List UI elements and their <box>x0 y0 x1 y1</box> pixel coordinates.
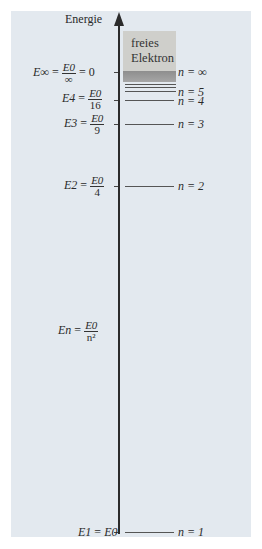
axis-label: Energie <box>65 12 102 27</box>
energy-label-1: E1 = E0 <box>78 525 117 540</box>
fraction-den: 4 <box>90 187 104 198</box>
formula-lhs: En <box>58 323 71 337</box>
energy-axis <box>118 20 120 534</box>
energy-level-line-4 <box>125 100 174 101</box>
fraction: E0∞ <box>62 62 76 85</box>
energy-level-line-2 <box>125 186 174 187</box>
energy-level-line-3 <box>125 124 174 125</box>
fraction-den: 9 <box>90 125 104 136</box>
n-label-2: n = 2 <box>178 179 204 194</box>
fraction: E09 <box>90 113 104 136</box>
tick-3 <box>114 124 118 125</box>
energy-level-line-6 <box>125 87 176 88</box>
n-label-3: n = 3 <box>178 117 204 132</box>
fraction: E04 <box>90 175 104 198</box>
energy-label-3: E3 = E09 <box>64 113 104 136</box>
continuum-band <box>123 71 176 82</box>
tick-2 <box>114 186 118 187</box>
fraction: E0n² <box>84 320 98 343</box>
tick-inf <box>114 72 118 73</box>
energy-level-line-high <box>125 84 176 85</box>
fraction-den: 16 <box>88 100 102 111</box>
free-electron-label: freies Elektron <box>131 36 174 66</box>
energy-lhs: E1 <box>78 525 91 539</box>
energy-tail: = 0 <box>79 65 95 79</box>
free-electron-line2: Elektron <box>131 51 174 66</box>
energy-lhs: E3 <box>64 116 77 130</box>
energy-label-4: E4 = E016 <box>62 88 102 111</box>
axis-arrow-icon <box>114 12 124 26</box>
energy-rhs: E0 <box>104 525 117 539</box>
n-label-4: n = 4 <box>178 94 204 109</box>
fraction-den: ∞ <box>62 74 76 85</box>
fraction: E016 <box>88 88 102 111</box>
fraction-den: n² <box>84 332 98 343</box>
tick-4 <box>114 100 118 101</box>
n-label-inf: n = ∞ <box>178 65 207 80</box>
free-electron-line1: freies <box>131 36 174 51</box>
energy-lhs: E2 <box>64 178 77 192</box>
energy-label-2: E2 = E04 <box>64 175 104 198</box>
diagram-panel <box>11 11 251 537</box>
energy-lhs: E∞ <box>33 65 49 79</box>
energy-level-line-5 <box>125 91 176 92</box>
energy-label-inf: E∞ = E0∞ = 0 <box>33 62 95 85</box>
energy-lhs: E4 <box>62 91 75 105</box>
general-formula: En = E0n² <box>58 320 98 343</box>
energy-level-line-1 <box>125 532 174 533</box>
n-label-1: n = 1 <box>178 525 204 540</box>
